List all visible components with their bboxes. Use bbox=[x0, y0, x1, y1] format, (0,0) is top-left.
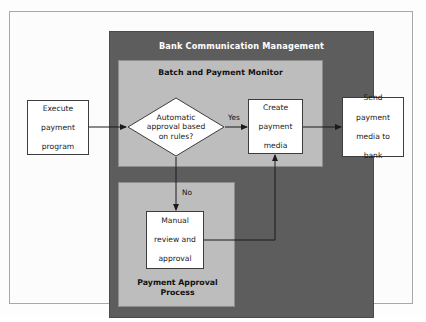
container-batch-and-payment-monitor-label: Batch and Payment Monitor bbox=[119, 68, 322, 77]
figure-frame: Bank Communication Management Batch and … bbox=[9, 11, 413, 304]
edge-label-no: No bbox=[182, 188, 192, 197]
payment-approval-title-text: Payment Approval Process bbox=[137, 278, 217, 297]
node-manual-review-and-approval-label: Manual review and approval bbox=[150, 216, 200, 264]
node-execute-payment-program-label: Execute payment program bbox=[37, 104, 79, 152]
node-execute-payment-program[interactable]: Execute payment program bbox=[27, 100, 89, 155]
node-automatic-approval-decision-label: Automatic approval based on rules? bbox=[141, 97, 211, 157]
node-send-payment-media-to-bank[interactable]: Send payment media to bank bbox=[342, 97, 404, 157]
node-manual-review-and-approval[interactable]: Manual review and approval bbox=[146, 211, 204, 269]
node-send-payment-media-to-bank-label: Send payment media to bank bbox=[352, 93, 394, 160]
container-bank-communication-management-label: Bank Communication Management bbox=[110, 41, 373, 51]
edge-label-yes: Yes bbox=[228, 113, 240, 122]
node-automatic-approval-decision[interactable]: Automatic approval based on rules? bbox=[127, 97, 225, 157]
node-create-payment-media[interactable]: Create payment media bbox=[248, 99, 303, 154]
node-create-payment-media-label: Create payment media bbox=[255, 103, 297, 151]
container-payment-approval-process-label: payment_approval Payment Approval Proces… bbox=[121, 278, 234, 298]
